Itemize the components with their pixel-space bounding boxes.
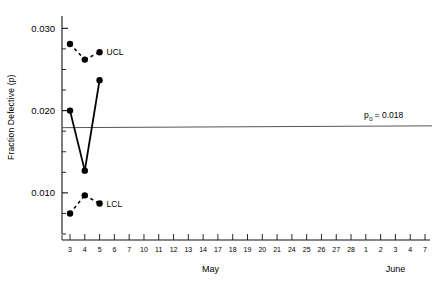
y-tick-label: 0.030: [31, 23, 55, 34]
x-tick-label: 28: [347, 246, 355, 253]
x-axis-ticks: [62, 234, 425, 240]
x-tick-label: 3: [393, 246, 397, 253]
ucl-annotation: UCL: [107, 47, 124, 57]
data-point: [67, 210, 73, 216]
series-segment-dashed: [70, 44, 85, 60]
x-tick-label: 18: [229, 246, 237, 253]
x-tick-label: 25: [303, 246, 311, 253]
chart-canvas: 0.0100.0200.030 Fraction Defective (p) U…: [0, 0, 436, 286]
y-axis-tick-labels: 0.0100.0200.030: [31, 23, 55, 199]
x-tick-label: 27: [332, 246, 340, 253]
x-tick-label: 4: [83, 246, 87, 253]
data-point: [67, 41, 73, 47]
x-tick-label: 10: [140, 246, 148, 253]
y-tick-label: 0.020: [31, 105, 55, 116]
x-tick-label: 1: [364, 246, 368, 253]
x-tick-label: 14: [199, 246, 207, 253]
data-point: [82, 167, 88, 173]
x-tick-label: 12: [170, 246, 178, 253]
series-segment-dashed: [70, 195, 85, 213]
x-tick-label: 13: [184, 246, 192, 253]
x-tick-label: 19: [244, 246, 252, 253]
data-point: [96, 49, 102, 55]
series-p: [67, 77, 103, 174]
series-segment: [85, 80, 100, 170]
x-tick-label: 11: [155, 246, 162, 253]
p0-value: = 0.018: [375, 110, 404, 120]
x-axis-month-labels: MayJune: [202, 264, 405, 274]
y-tick-label: 0.010: [31, 187, 55, 198]
x-tick-label: 3: [68, 246, 72, 253]
x-tick-label: 5: [98, 246, 102, 253]
p0-subscript: 0: [369, 116, 373, 122]
data-point: [67, 107, 73, 113]
x-month-label: May: [202, 264, 220, 274]
x-tick-label: 24: [288, 246, 296, 253]
data-point: [96, 77, 102, 83]
y-axis-ticks: [62, 28, 68, 234]
data-point: [82, 192, 88, 198]
lcl-annotation: LCL: [107, 199, 123, 209]
x-tick-label: 7: [127, 246, 131, 253]
p-control-chart: 0.0100.0200.030 Fraction Defective (p) U…: [0, 0, 436, 286]
x-tick-label: 4: [408, 246, 412, 253]
series-segment: [70, 111, 85, 171]
x-tick-label: 20: [258, 246, 266, 253]
x-tick-label: 21: [273, 246, 281, 253]
x-month-label: June: [386, 264, 406, 274]
series-ucl: [67, 41, 103, 63]
center-line-p0: [62, 126, 432, 128]
series-lcl: [67, 192, 103, 216]
x-axis-tick-labels: 3456710111213141718192021242526272812347: [68, 246, 427, 253]
x-tick-label: 26: [318, 246, 326, 253]
x-tick-label: 6: [112, 246, 116, 253]
data-point: [96, 200, 102, 206]
p0-annotation: p 0 = 0.018: [364, 110, 403, 122]
y-axis-title: Fraction Defective (p): [6, 74, 16, 160]
x-tick-label: 2: [379, 246, 383, 253]
x-tick-label: 17: [214, 246, 222, 253]
x-tick-label: 7: [423, 246, 427, 253]
data-point: [82, 56, 88, 62]
